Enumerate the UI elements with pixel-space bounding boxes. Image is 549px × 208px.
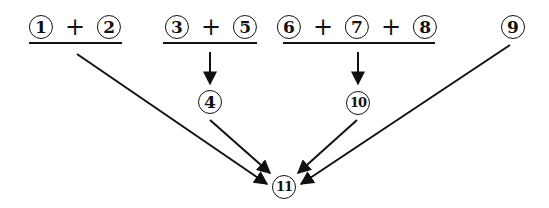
node-1: 1 — [29, 15, 53, 39]
arrow-9-to-11 — [301, 45, 510, 184]
node-4: 4 — [198, 90, 222, 114]
plus-sign: + — [313, 15, 333, 39]
group-3: 6+7+8 — [277, 15, 437, 39]
group-2: 3+5 — [165, 15, 257, 39]
group-1: 1+2 — [29, 15, 121, 39]
node-6: 6 — [277, 15, 301, 39]
node-2: 2 — [97, 15, 121, 39]
arrow-group1-to-11 — [77, 54, 267, 184]
node-11: 11 — [272, 175, 296, 199]
node-9: 9 — [501, 15, 525, 39]
arrow-10-to-11 — [298, 120, 357, 173]
node-10: 10 — [346, 91, 370, 115]
node-8: 8 — [413, 15, 437, 39]
result-4: 4 — [198, 90, 222, 114]
plus-sign: + — [381, 15, 401, 39]
plus-sign: + — [201, 15, 221, 39]
plus-sign: + — [65, 15, 85, 39]
node-3: 3 — [165, 15, 189, 39]
final-11: 11 — [272, 173, 296, 199]
result-10: 10 — [346, 89, 370, 115]
group-4: 9 — [501, 15, 525, 39]
node-7: 7 — [345, 15, 369, 39]
node-5: 5 — [233, 15, 257, 39]
